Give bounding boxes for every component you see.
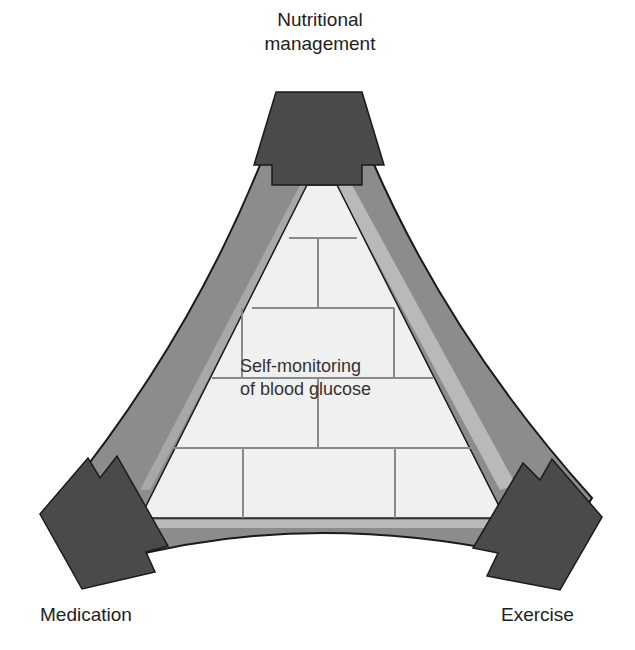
exercise-label: Exercise <box>501 603 574 627</box>
medication-label: Medication <box>40 603 132 627</box>
diabetes-management-triangle <box>0 0 635 650</box>
center-label-line1: Self-monitoring <box>240 355 371 378</box>
nutritional-label-line1: Nutritional <box>250 8 390 32</box>
nutritional-label-line2: management <box>250 32 390 56</box>
self-monitoring-label: Self-monitoring of blood glucose <box>240 355 371 401</box>
nutritional-management-label: Nutritional management <box>250 8 390 56</box>
band-highlight-bottom <box>140 520 515 528</box>
center-label-line2: of blood glucose <box>240 378 371 401</box>
